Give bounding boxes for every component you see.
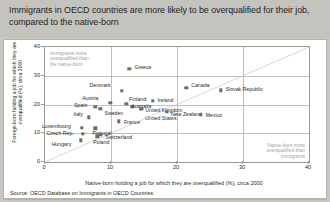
- annotation-immigrants-more-overqualified: Immigrants more overqualified than the n…: [50, 51, 89, 67]
- figure-page: Immigrants in OECD countries are more li…: [0, 0, 330, 202]
- data-point-label: Austria: [82, 96, 98, 102]
- data-point-marker: [199, 113, 202, 116]
- y-tick-mark: [41, 161, 44, 162]
- x-tick-label: 0: [34, 164, 54, 170]
- x-tick-mark: [308, 161, 309, 164]
- source-note: Source: OECD Database on Immigrants in O…: [10, 190, 153, 196]
- x-axis-label: Native-born holding a job for which they…: [34, 180, 314, 186]
- data-point-label: Slovak Republic: [226, 87, 263, 93]
- y-tick-mark: [41, 132, 44, 133]
- scatter-plot-area: Immigrants more overqualified than the n…: [44, 46, 310, 163]
- data-point-label: Greece: [134, 65, 151, 71]
- data-point-marker: [79, 138, 82, 141]
- x-tick-mark: [242, 161, 243, 164]
- data-point-marker: [80, 126, 83, 129]
- y-tick-label: 30: [24, 72, 40, 78]
- y-tick-label: 10: [24, 129, 40, 135]
- figure-header: Immigrants in OECD countries are more li…: [0, 0, 330, 38]
- data-point-marker: [128, 67, 131, 70]
- data-point-marker: [95, 134, 98, 137]
- data-point-label: Spain: [74, 103, 87, 109]
- gridline-horizontal: [45, 76, 309, 77]
- data-point-label: Poland: [93, 140, 109, 146]
- data-point-marker: [151, 99, 154, 102]
- data-point-label: Sweden: [104, 111, 123, 117]
- x-tick-label: 30: [232, 164, 252, 170]
- data-point-marker: [140, 107, 143, 110]
- data-point-marker: [109, 101, 112, 104]
- x-tick-mark: [110, 161, 111, 164]
- x-tick-mark: [176, 161, 177, 164]
- data-point-marker: [185, 86, 188, 89]
- data-point-marker: [165, 110, 168, 113]
- data-point-label: Canada: [191, 83, 209, 89]
- x-tick-label: 20: [166, 164, 186, 170]
- data-point-marker: [120, 89, 123, 92]
- data-point-marker: [81, 132, 84, 135]
- data-point-label: Luxembourg: [42, 124, 71, 130]
- data-point-label: United States: [145, 116, 176, 122]
- data-point-label: Ireland: [158, 98, 174, 104]
- data-point-label: Hungary: [52, 142, 72, 148]
- x-tick-label: 40: [298, 164, 318, 170]
- annotation-native-born-more-overqualified: Native-born more overqualified than immi…: [266, 143, 305, 159]
- page-title: Immigrants in OECD countries are more li…: [9, 4, 321, 29]
- y-tick-mark: [41, 46, 44, 47]
- data-point-marker: [99, 107, 102, 110]
- chart-card: Foreign-born holding a job for which the…: [3, 39, 327, 199]
- y-tick-label: 0: [24, 158, 40, 164]
- data-point-marker: [99, 133, 102, 136]
- data-point-label: Mexico: [206, 113, 222, 119]
- x-tick-label: 10: [100, 164, 120, 170]
- data-point-label: Italy: [74, 112, 84, 118]
- data-point-marker: [93, 105, 96, 108]
- data-point-marker: [219, 89, 222, 92]
- data-point-marker: [124, 102, 127, 105]
- y-tick-label: 40: [24, 43, 40, 49]
- y-tick-mark: [41, 104, 44, 105]
- y-tick-mark: [41, 75, 44, 76]
- x-tick-mark: [44, 161, 45, 164]
- data-point-marker: [117, 120, 120, 123]
- data-point-label: France: [124, 120, 140, 126]
- y-tick-label: 20: [24, 101, 40, 107]
- data-point-label: Switzerland: [105, 135, 132, 141]
- y-axis-label: Foreign-born holding a job for which the…: [11, 36, 23, 148]
- data-point-label: Finland: [129, 97, 146, 103]
- data-point-label: Denmark: [90, 83, 111, 89]
- gridline-horizontal: [45, 133, 309, 134]
- data-point-marker: [87, 116, 90, 119]
- data-point-label: Czech Rep.: [47, 131, 74, 137]
